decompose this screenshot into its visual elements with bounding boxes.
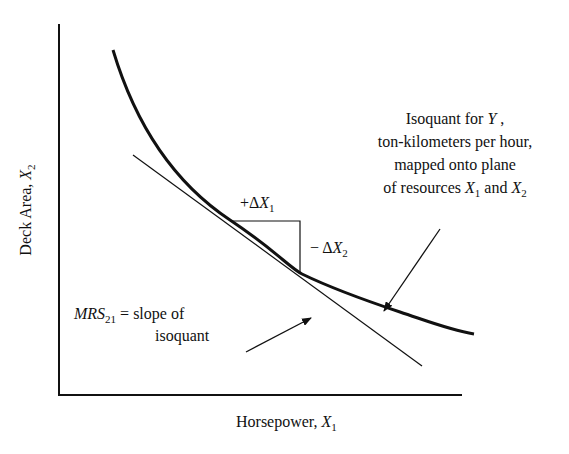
isoquant-diagram [0,0,569,454]
delta-x1-label: +ΔX1 [240,193,275,212]
mrs-arrow [246,318,311,352]
y-axis-label: Deck Area, X2 [17,164,35,255]
x-axis-label: Horsepower, X1 [236,412,337,431]
delta-x2-label: − ΔX2 [310,238,348,257]
isoquant-annotation: Isoquant for Y , ton-kilometers per hour… [340,109,569,201]
mrs-annotation: MRS21 = slope of isoquant [74,304,209,345]
isoquant-arrow [384,229,440,311]
